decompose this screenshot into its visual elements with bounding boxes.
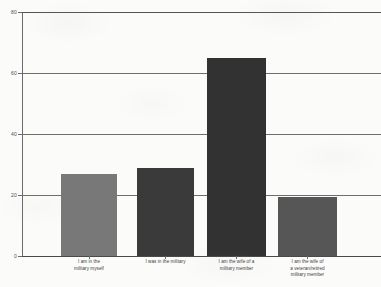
bar-wife-of-military-member: [207, 58, 266, 256]
gridline-40: 40: [22, 134, 381, 135]
x-label-wife-of-military-member: I am the wife of a military member: [203, 259, 270, 272]
x-label-line: I was in the military: [145, 259, 185, 264]
x-label-line: a veteran/retired: [290, 266, 324, 271]
bar-wife-of-veteran-retired: [278, 197, 337, 256]
y-tick-label-60: 60: [11, 70, 17, 76]
y-tick-label-40: 40: [11, 131, 17, 137]
x-label-was-in-military: I was in the military: [131, 259, 200, 266]
gridline-80: 80: [22, 12, 381, 13]
bar-military-myself: [61, 174, 117, 256]
x-label-line: I am in the: [78, 259, 100, 264]
x-label-wife-of-veteran-retired: I am the wife of a veteran/retired milit…: [274, 259, 341, 279]
y-tick-label-0: 0: [14, 253, 17, 259]
x-label-line: military member: [220, 266, 253, 271]
gridline-60: 60: [22, 73, 381, 74]
x-label-line: military myself: [74, 266, 104, 271]
x-label-line: I am the wife of a: [219, 259, 255, 264]
bar-chart-screenshot: 80 60 40 20 0 I am in the military mysel…: [0, 0, 381, 287]
x-label-line: I am the wife of: [292, 259, 324, 264]
x-label-line: military member: [291, 272, 324, 277]
plot-area: 80 60 40 20 0: [22, 12, 381, 256]
x-axis-labels: I am in the military myself I was in the…: [22, 256, 381, 287]
x-label-military-myself: I am in the military myself: [57, 259, 121, 272]
y-tick-label-20: 20: [11, 192, 17, 198]
y-tick-label-80: 80: [11, 9, 17, 15]
bar-was-in-military: [137, 168, 194, 256]
